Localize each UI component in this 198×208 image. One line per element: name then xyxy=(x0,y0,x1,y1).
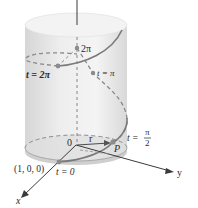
point-t-pi xyxy=(91,71,95,75)
label-z-2pi: 2π xyxy=(81,43,91,54)
point-z-2pi xyxy=(75,46,79,50)
label-t-pi-half-prefix: t = xyxy=(127,133,138,143)
cylinder-top xyxy=(25,13,127,37)
label-x-axis: x xyxy=(15,195,21,206)
helix-diagram: 2π t = 2π t = π 0 r P t = π 2 (1, 0, 0) … xyxy=(0,0,198,208)
point-t-2pi xyxy=(56,64,61,69)
label-P: P xyxy=(113,143,120,154)
label-y-axis: y xyxy=(177,167,182,178)
point-t0 xyxy=(57,160,62,165)
label-t0: t = 0 xyxy=(56,167,75,177)
label-t-2pi: t = 2π xyxy=(26,69,50,80)
label-origin: 0 xyxy=(67,137,72,148)
label-point-100: (1, 0, 0) xyxy=(14,164,44,175)
label-t-pi-half-den: 2 xyxy=(145,138,150,148)
label-t-pi: t = π xyxy=(97,68,115,78)
y-axis-arrowhead xyxy=(165,168,174,174)
diagram-svg: 2π t = 2π t = π 0 r P t = π 2 (1, 0, 0) … xyxy=(0,0,198,208)
label-t-pi-half-num: π xyxy=(145,127,150,137)
